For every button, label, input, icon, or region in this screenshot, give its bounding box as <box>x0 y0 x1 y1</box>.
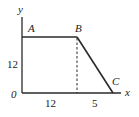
x-axis-label: x <box>124 86 130 98</box>
origin-label: 0 <box>11 88 17 100</box>
graph-diagram: y x 0 A B C 12 12 5 <box>0 0 139 117</box>
x-segment-2-label: 5 <box>92 97 98 109</box>
y-height-label: 12 <box>7 58 18 70</box>
point-c-label: C <box>112 75 120 87</box>
point-b-label: B <box>75 22 82 34</box>
y-axis-label: y <box>17 3 23 15</box>
x-segment-1-label: 12 <box>45 97 56 109</box>
point-a-label: A <box>27 22 35 34</box>
segment-bc <box>77 37 113 93</box>
